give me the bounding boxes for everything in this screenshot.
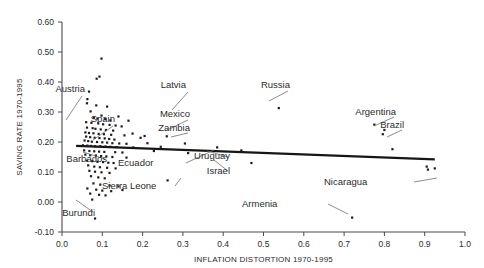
data-point [111,142,113,144]
data-point [85,136,87,138]
data-point [90,145,92,147]
data-point [87,164,89,166]
data-point [250,162,252,164]
data-point [114,151,116,153]
data-point [91,141,93,143]
annotation-leader-line [66,96,82,120]
data-point [114,167,116,169]
annotation-label: Barbados [66,153,107,164]
data-point [121,125,123,127]
data-point [125,143,127,145]
data-point [98,194,100,196]
data-point [94,145,96,147]
data-point [82,144,84,146]
data-point [97,176,99,178]
data-point [92,182,94,184]
data-point [85,121,87,123]
data-point [427,169,429,171]
x-tick-label: 0.9 [419,239,431,249]
x-tick-label: 0.8 [378,239,390,249]
y-axis-title: SAVING RATE 1970-1995 [15,78,24,176]
data-point [112,130,114,132]
data-point [87,140,89,142]
data-point [95,189,97,191]
data-point [91,199,93,201]
data-point [118,142,120,144]
y-tick-label: 0.10 [37,167,54,177]
data-point [104,194,106,196]
y-tick-label: 0.30 [37,107,54,117]
annotation-leader-line [171,133,188,137]
y-tick-label: 0.50 [37,47,54,57]
data-point [160,146,162,148]
y-tick-label: 0.60 [37,17,54,27]
data-point [113,139,115,141]
data-point [100,58,102,60]
data-point [107,162,109,164]
data-point [127,120,129,122]
annotation-label: Israel [207,165,230,176]
data-point [391,148,393,150]
annotation-label: Argentina [355,106,396,117]
data-point [187,152,189,154]
data-point [94,171,96,173]
data-point [103,133,105,135]
annotation-leader-line [175,178,181,186]
x-tick-label: 0.6 [298,239,310,249]
data-point [104,145,106,147]
annotation-label: Brazil [380,119,404,130]
data-point [108,138,110,140]
data-point [88,170,90,172]
data-point [278,107,280,109]
data-point [109,146,111,148]
data-point [240,149,242,151]
annotation-leader-line [328,204,348,214]
y-tick-label: 0.20 [37,137,54,147]
data-point [108,172,110,174]
x-axis-title: INFLATION DISTORTION 1970-1995 [194,255,333,264]
scatter-plot-figure: -0.100.000.100.200.300.400.500.600.00.10… [0,0,484,268]
data-point [104,137,106,139]
data-point [92,127,94,129]
annotation-leader-line [387,130,402,137]
data-point [108,124,110,126]
data-point [96,78,98,80]
data-point [100,128,102,130]
data-point [88,91,90,93]
x-tick-label: 0.0 [56,239,68,249]
data-point [98,137,100,139]
annotation-label: Burundi [62,207,95,218]
data-point [99,166,101,168]
data-point [144,135,146,137]
data-point [89,136,91,138]
y-tick-label: 0.00 [37,197,54,207]
y-tick-label: -0.10 [35,227,55,237]
data-point [95,104,97,106]
data-point [123,134,125,136]
data-point [434,167,436,169]
data-point [86,127,88,129]
annotation-label: Ecuador [118,157,153,168]
data-point [166,135,168,137]
x-tick-label: 1.0 [459,239,471,249]
data-point [84,131,86,133]
annotation-label: Russia [261,79,291,90]
annotation-label: Nicaragua [324,176,368,187]
data-point [98,76,100,78]
data-point [115,146,117,148]
annotation-label: Sierra Leone [102,180,156,191]
data-point [131,133,133,135]
data-point [92,132,94,134]
annotation-leader-line [269,91,288,101]
data-point [101,141,103,143]
data-point [83,149,85,151]
data-point [121,151,123,153]
data-point [86,145,88,147]
data-point [94,128,96,130]
data-point [184,142,186,144]
data-point [106,142,108,144]
data-point [110,134,112,136]
x-tick-label: 0.2 [137,239,149,249]
data-point [88,150,90,152]
data-point [106,167,108,169]
